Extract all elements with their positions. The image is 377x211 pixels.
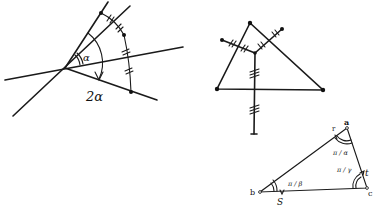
tick-mark <box>125 68 132 71</box>
tick-mark <box>123 52 130 55</box>
vertex-a <box>346 127 349 130</box>
alpha-arc <box>75 55 80 65</box>
label-angle-c: π / γ <box>336 166 352 174</box>
angle-arc-c <box>356 177 361 188</box>
vertex-top <box>248 21 252 25</box>
figure-perpendicular-bisectors <box>215 21 325 134</box>
vertex-b <box>259 191 262 194</box>
label-r: r <box>332 125 336 133</box>
figure-angle-doubling: α 2α <box>5 2 183 116</box>
angle-arc-b <box>271 183 274 191</box>
circumcenter <box>253 51 257 55</box>
tick-mark <box>122 49 129 52</box>
label-b: b <box>250 188 255 197</box>
mirror-line-diagonal <box>13 6 130 116</box>
vertex-left <box>215 87 219 91</box>
label-angle-b: π / β <box>287 180 303 188</box>
point-p2 <box>122 33 126 37</box>
label-t: t <box>365 168 369 178</box>
figure-reflection-triangle: a b c r S t π / α π / γ π / β <box>250 117 373 207</box>
bisector-bottom <box>254 53 255 134</box>
reflection-point-right <box>280 27 284 31</box>
diagram-canvas: α 2α <box>0 0 377 211</box>
label-c: c <box>368 189 373 198</box>
bisector-left <box>222 40 255 53</box>
reflection-point-left <box>220 38 224 42</box>
label-angle-a: π / α <box>332 149 349 157</box>
point-p3 <box>129 90 133 94</box>
arrow-s-icon <box>280 190 284 194</box>
alpha-label: α <box>83 52 90 63</box>
point-p1 <box>99 11 103 15</box>
triangle <box>217 23 323 90</box>
angle-arc-a <box>337 136 351 141</box>
vertex-right <box>321 88 325 92</box>
ray-lower <box>65 68 157 100</box>
double-alpha-label: 2α <box>85 89 103 104</box>
label-s: S <box>277 197 283 207</box>
orbit-path <box>101 13 131 92</box>
label-a: a <box>344 117 349 127</box>
mirror-line-horizontal <box>5 47 183 80</box>
triangle-abc <box>260 128 367 192</box>
